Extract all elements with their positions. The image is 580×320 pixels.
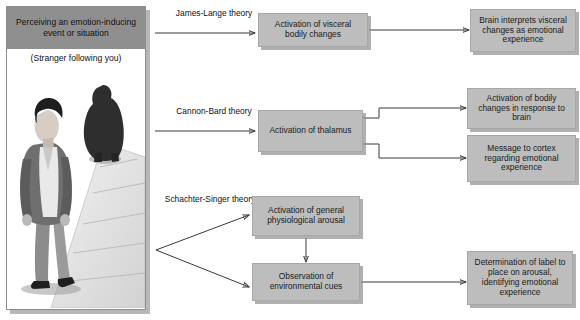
box-label-determination: Determination of label to place on arous…	[467, 251, 573, 305]
box-environmental-cues: Observation of environmental cues	[252, 263, 360, 301]
box-message-cortex: Message to cortex regarding emotional ex…	[467, 135, 576, 182]
emotion-theories-diagram: Perceiving an emotion-inducing event or …	[0, 0, 580, 320]
box-bodily-response: Activation of bodily changes in response…	[467, 88, 576, 129]
box-visceral-changes: Activation of visceral bodily changes	[258, 13, 368, 47]
arrow-schachter-to-cues	[156, 250, 249, 287]
arrow-thalamus-to-cortex	[363, 144, 466, 158]
box-brain-interprets: Brain interprets visceral changes as emo…	[470, 9, 576, 52]
box-thalamus: Activation of thalamus	[258, 110, 363, 152]
box-physiological-arousal: Activation of general physiological arou…	[252, 196, 360, 236]
arrow-thalamus-to-bodily	[363, 108, 466, 118]
arrow-schachter-to-arousal	[156, 215, 249, 250]
